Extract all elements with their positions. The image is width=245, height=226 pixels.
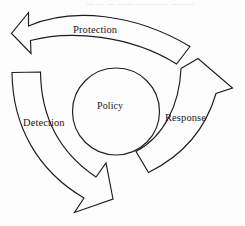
cycle-diagram-canvas — [0, 0, 245, 226]
policy-circle — [73, 68, 160, 155]
detection-label: Detection — [23, 118, 65, 129]
security-cycle-diagram: — — — —— ———— ——— Protection Detection R… — [0, 0, 245, 226]
response-label: Response — [165, 113, 206, 124]
protection-arrow-shape — [12, 13, 191, 65]
policy-label: Policy — [97, 101, 123, 111]
protection-label: Protection — [73, 25, 117, 36]
